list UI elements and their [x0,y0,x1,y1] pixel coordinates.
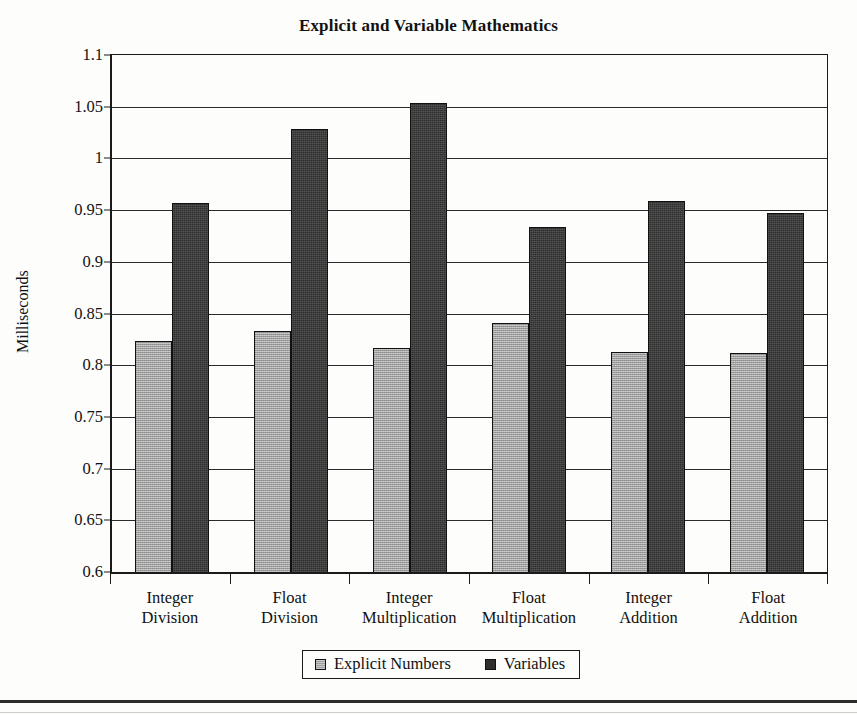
x-axis-category-label: IntegerAddition [589,588,709,629]
x-tick-cell [469,574,589,586]
y-tick-label: 0.75 [74,409,103,426]
plot-area: 1.11.0510.950.90.850.80.750.70.650.6 [110,54,828,574]
y-tick-label: 1 [95,150,103,167]
x-axis-category-label-line: Float [231,588,349,608]
legend-label: Variables [504,654,565,674]
x-axis-category-label: FloatDivision [230,588,350,629]
y-tick-label: 0.85 [74,305,103,322]
y-tick-mark [104,261,112,262]
x-tick-mark [589,574,590,584]
chart-title: Explicit and Variable Mathematics [0,16,857,36]
y-tick-mark [104,520,112,521]
x-tick-mark [349,574,350,584]
y-tick-label: 0.95 [74,202,103,219]
x-axis-category-label: IntegerMultiplication [349,588,469,629]
bar[interactable] [172,203,209,572]
x-axis-category-label-line: Addition [709,608,827,628]
x-tick-mark [230,574,231,584]
bar[interactable] [730,353,767,572]
bar[interactable] [492,323,529,572]
y-tick-mark [104,416,112,417]
y-tick-label: 1.1 [82,47,103,64]
page-divider-rule [0,700,857,703]
bar-group [231,55,350,572]
x-axis-category-label: FloatMultiplication [469,588,589,629]
y-tick-mark [104,106,112,107]
chart-legend: Explicit NumbersVariables [302,650,580,679]
bar[interactable] [254,331,291,572]
x-axis-category-label-line: Multiplication [470,608,588,628]
y-tick-label: 1.05 [74,98,103,115]
y-tick-label: 0.6 [82,564,103,581]
y-tick-label: 0.65 [74,512,103,529]
bar[interactable] [648,201,685,572]
x-axis-category-label-line: Multiplication [350,608,468,628]
bar-group [112,55,231,572]
bar-group [470,55,589,572]
x-tick-cell [230,574,350,586]
legend-label: Explicit Numbers [334,654,451,674]
y-tick-mark [104,313,112,314]
y-tick-mark [104,572,112,573]
x-axis-labels: IntegerDivisionFloatDivisionIntegerMulti… [110,588,828,629]
x-tick-mark [110,574,111,584]
bar[interactable] [291,129,328,572]
bar[interactable] [529,227,566,572]
y-tick-mark [104,210,112,211]
bar[interactable] [410,103,447,572]
bars-layer [112,55,827,572]
x-axis-category-label-line: Float [470,588,588,608]
bar-group [589,55,708,572]
legend-swatch-icon [315,659,326,670]
bar[interactable] [611,352,648,572]
y-tick-mark [104,55,112,56]
y-tick-label: 0.8 [82,357,103,374]
y-tick-mark [104,365,112,366]
x-tick-cell [110,574,230,586]
x-axis-category-label-line: Integer [590,588,708,608]
x-axis-category-label-line: Addition [590,608,708,628]
bar[interactable] [135,341,172,572]
legend-entry[interactable]: Explicit Numbers [315,654,451,674]
x-tick-cell [708,574,828,586]
x-axis-category-label-line: Division [231,608,349,628]
chart-page: Explicit and Variable Mathematics Millis… [0,0,857,715]
x-axis-category-label: FloatAddition [708,588,828,629]
bar-group [350,55,469,572]
bar[interactable] [373,348,410,572]
x-tick-cell [589,574,709,586]
bar[interactable] [767,213,804,572]
y-tick-label: 0.7 [82,460,103,477]
x-axis-category-label-line: Division [111,608,229,628]
bar-group [708,55,827,572]
y-tick-label: 0.9 [82,254,103,271]
x-axis-category-label-line: Float [709,588,827,608]
x-axis-category-label-line: Integer [350,588,468,608]
page-divider-rule-secondary [0,712,857,713]
x-tick-mark [708,574,709,584]
legend-entry[interactable]: Variables [485,654,565,674]
y-tick-mark [104,468,112,469]
x-axis-category-label: IntegerDivision [110,588,230,629]
x-tick-cell [349,574,469,586]
x-tick-mark [827,574,828,584]
x-axis-category-label-line: Integer [111,588,229,608]
y-tick-mark [104,158,112,159]
x-tick-mark [469,574,470,584]
legend-swatch-icon [485,659,496,670]
x-axis-ticks [110,574,828,586]
y-axis-title: Milliseconds [14,222,44,402]
